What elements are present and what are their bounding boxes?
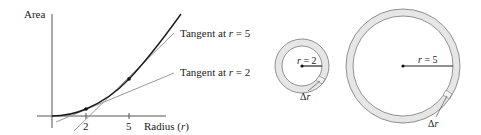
x-axis-label: Radius (r) [144,120,189,133]
tangent-line-r2 [56,73,174,122]
ring-r2: r = 2 Δr [275,39,329,102]
y-axis-label: Area [24,8,45,20]
delta-label-r5: Δr [428,118,438,129]
tick-label-2: 2 [83,120,89,132]
tick-label-5: 5 [126,120,132,132]
tangent-label-r5: Tangent at r = 5 [180,27,251,39]
area-radius-diagram: Area 2 5 Radius (r) Tangent at r = 5 Tan… [0,0,481,135]
point-r5 [127,77,131,81]
delta-label-r2: Δr [300,91,310,102]
ring-r5: r = 5 Δr [346,9,460,129]
radius-label-r5: r = 5 [418,54,438,65]
center-dot-r5 [401,64,404,67]
radius-label-r2: r = 2 [297,55,317,66]
graph: Area 2 5 Radius (r) Tangent at r = 5 Tan… [24,8,251,133]
area-curve [52,14,181,116]
tangent-label-r2: Tangent at r = 2 [180,66,250,78]
point-r2 [84,107,88,111]
